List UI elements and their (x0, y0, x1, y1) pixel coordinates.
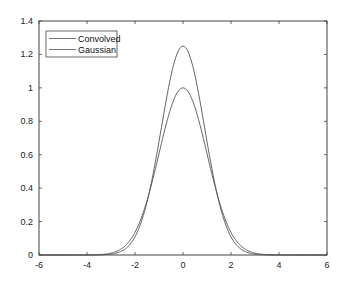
x-tick-label: -2 (131, 260, 139, 270)
y-tick-label: 0.4 (20, 183, 33, 193)
x-tick-label: 0 (180, 260, 185, 270)
x-tick-label: 6 (324, 260, 329, 270)
y-tick-label: 1.4 (20, 16, 33, 26)
y-tick-label: 0.6 (20, 150, 33, 160)
legend-label-gaussian: Gaussian (78, 45, 116, 55)
y-tick-label: 0.2 (20, 217, 33, 227)
legend: Convolved Gaussian (46, 31, 121, 57)
y-tick-label: 1 (28, 83, 33, 93)
x-tick-label: 4 (276, 260, 281, 270)
y-tick-label: 0 (28, 250, 33, 260)
y-tick-label: 1.2 (20, 49, 33, 59)
y-tick-label: 0.8 (20, 116, 33, 126)
x-tick-label: -6 (35, 260, 43, 270)
x-tick-label: -4 (83, 260, 91, 270)
x-tick-label: 2 (228, 260, 233, 270)
legend-label-convolved: Convolved (78, 34, 121, 44)
line-chart: -6-4-2024600.20.40.60.811.21.4 Convolved… (0, 0, 345, 285)
